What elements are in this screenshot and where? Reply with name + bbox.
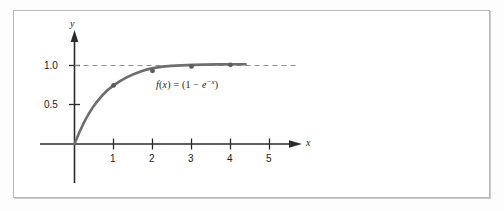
equation-close-paren: ) [215,79,219,90]
curve-equation-label: f(x) = (1 − e−x) [156,79,218,90]
x-tick-label-4: 4 [227,153,233,164]
x-tick-label-3: 3 [188,153,194,164]
equation-exponent: −x [207,78,215,86]
data-marker-x2 [150,68,155,73]
data-marker-x1 [111,83,116,88]
x-axis-arrowhead [289,140,302,148]
y-tick-label-1-0: 1.0 [44,60,58,71]
x-tick-label-1: 1 [110,153,116,164]
plot-canvas [0,0,504,211]
x-tick-label-5: 5 [266,153,272,164]
equation-open-paren: (1 − [182,79,202,90]
equation-equals: = [171,79,182,90]
x-axis-label: x [306,137,310,148]
figure-root: 1.0 0.5 1 2 3 4 5 y x f(x) = (1 − e−x) [0,0,504,211]
y-axis-arrowhead [71,30,79,42]
y-tick-label-0-5: 0.5 [44,99,58,110]
exponential-curve [75,64,246,144]
data-marker-x3 [189,64,194,69]
x-tick-label-2: 2 [149,153,155,164]
x-axis [40,140,302,148]
y-axis-label: y [70,18,74,29]
data-marker-x4 [228,62,233,67]
y-axis [71,30,79,183]
